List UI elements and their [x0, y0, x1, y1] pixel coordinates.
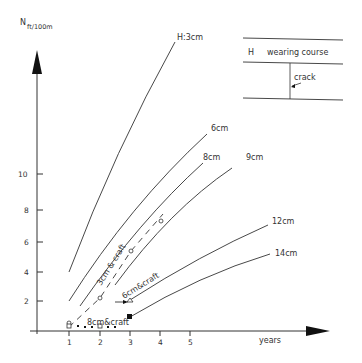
series-14cm [130, 254, 270, 317]
inset-crack-label: crack [294, 73, 316, 82]
y-tick-4: 4 [24, 268, 29, 277]
x-axis: 1 2 3 4 5 years [30, 326, 330, 347]
label-h3cm: H:3cm [177, 33, 203, 42]
label-8cm-craft: 8cm&craft [87, 318, 129, 327]
y-tick-6: 6 [24, 238, 29, 247]
y-axis-label-sub: ft/100m [27, 23, 53, 31]
y-axis-label-main: N [20, 18, 26, 27]
y-tick-8: 8 [24, 206, 29, 215]
series-12cm [130, 225, 268, 300]
circle-marker [129, 249, 133, 253]
series-labels: H:3cm 6cm 8cm 9cm 12cm 14cm 3cm & craft … [87, 33, 298, 327]
x-tick-2: 2 [98, 338, 103, 347]
x-axis-arrow-icon [306, 326, 330, 336]
y-axis-label: N ft/100m [20, 18, 53, 31]
chart-svg: N ft/100m 10 8 6 4 2 1 2 [0, 0, 362, 363]
series-3cm-craft [69, 214, 163, 327]
x-tick-5: 5 [188, 338, 193, 347]
x-tick-4: 4 [158, 338, 163, 347]
crack-arrow-icon [291, 84, 295, 88]
y-tick-10: 10 [18, 170, 28, 179]
y-ticks: 10 8 6 4 2 [18, 170, 43, 306]
inset-layer-label: wearing course [267, 48, 328, 57]
inset-diagram: H wearing course crack [243, 38, 343, 100]
inset-h-label: H [248, 48, 254, 57]
label-8cm: 8cm [203, 153, 220, 162]
y-tick-2: 2 [24, 297, 29, 306]
circle-marker [159, 219, 163, 223]
series-9cm [115, 168, 232, 285]
y-axis: 10 8 6 4 2 [18, 50, 43, 334]
x-ticks: 1 2 3 4 5 [67, 331, 193, 347]
circle-marker [98, 296, 102, 300]
chart-area: N ft/100m 10 8 6 4 2 1 2 [0, 0, 362, 363]
series-h3cm [69, 42, 175, 272]
label-12cm: 12cm [272, 217, 295, 226]
y-axis-arrow-icon [32, 50, 42, 74]
label-6cm: 6cm [211, 124, 228, 133]
label-6cm-craft: 6cm&craft [120, 271, 160, 301]
square-marker [67, 324, 71, 328]
series-6cm [69, 134, 207, 301]
label-9cm: 9cm [246, 153, 263, 162]
arrow-head-icon [123, 300, 128, 304]
x-tick-3: 3 [128, 338, 133, 347]
x-axis-label: years [259, 336, 281, 345]
label-3cm-craft: 3cm & craft [95, 242, 128, 287]
x-tick-1: 1 [67, 338, 72, 347]
label-14cm: 14cm [275, 249, 298, 258]
